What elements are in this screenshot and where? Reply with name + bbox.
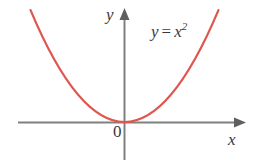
x-axis-arrow-icon bbox=[234, 118, 246, 128]
equation-exponent: 2 bbox=[182, 20, 188, 32]
x-axis-label: x bbox=[228, 131, 236, 148]
parabola-figure: y x 0 y=x2 bbox=[0, 0, 265, 162]
equation-annotation: y=x2 bbox=[151, 21, 187, 40]
y-axis-arrow-icon bbox=[120, 8, 130, 20]
equation-equals-sign: = bbox=[159, 22, 175, 41]
equation-base: x bbox=[174, 22, 182, 41]
origin-label: 0 bbox=[113, 123, 122, 140]
y-axis-label: y bbox=[106, 6, 114, 23]
plot-area bbox=[0, 0, 265, 162]
equation-lhs: y bbox=[151, 22, 159, 41]
